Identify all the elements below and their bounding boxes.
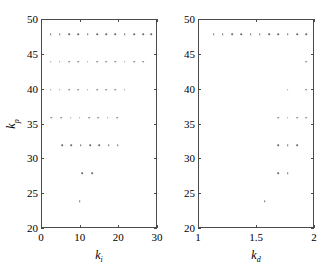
axis-label-subscript: i [101, 255, 103, 264]
y-tick-label: 45 [27, 48, 38, 59]
data-point [278, 172, 280, 174]
data-point [61, 145, 63, 147]
data-point [306, 33, 308, 35]
data-point [115, 89, 117, 91]
y-tick-mark-mirror [154, 228, 157, 229]
data-point [268, 33, 270, 35]
data-point [70, 117, 72, 119]
x-tick-mark-mirror [314, 19, 315, 22]
y-tick-mark [198, 193, 201, 194]
data-point [71, 145, 73, 147]
y-tick-mark-mirror [311, 228, 314, 229]
x-tick-label: 0 [38, 232, 44, 243]
data-point [96, 33, 98, 35]
y-tick-mark [41, 228, 44, 229]
data-point [59, 61, 61, 63]
y-tick-mark-mirror [154, 193, 157, 194]
y-tick-mark [198, 124, 201, 125]
y-tick-label: 40 [184, 83, 195, 94]
data-point [222, 33, 224, 35]
data-point [50, 117, 52, 119]
y-tick-mark [198, 54, 201, 55]
x-tick-mark-mirror [41, 19, 42, 22]
data-point [108, 145, 110, 147]
data-point [306, 89, 308, 91]
data-point [287, 89, 289, 91]
x-tick-mark [198, 225, 199, 228]
y-tick-label: 35 [27, 118, 38, 129]
x-tick-mark [314, 225, 315, 228]
data-point [96, 61, 98, 63]
data-point [78, 33, 80, 35]
data-point [98, 145, 100, 147]
x-tick-mark-mirror [118, 19, 119, 22]
y-tick-mark-mirror [154, 124, 157, 125]
x-tick-mark [256, 225, 257, 228]
data-point [296, 117, 298, 119]
data-point [250, 33, 252, 35]
data-point [79, 117, 81, 119]
y-tick-mark [198, 89, 201, 90]
data-point [105, 89, 107, 91]
x-tick-mark [41, 225, 42, 228]
y-tick-mark-mirror [311, 158, 314, 159]
data-point [81, 172, 83, 174]
data-point [133, 33, 135, 35]
scatter-panel-kd: 2025303540455011.52 kd [162, 0, 323, 272]
x-tick-label: 2 [311, 232, 317, 243]
data-point [59, 33, 61, 35]
y-tick-mark-mirror [154, 158, 157, 159]
data-point [50, 61, 52, 63]
data-point [68, 33, 70, 35]
y-tick-label: 25 [27, 188, 38, 199]
data-point [287, 145, 289, 147]
x-axis-label-right: kd [251, 249, 260, 264]
data-point [259, 33, 261, 35]
y-tick-mark [41, 124, 44, 125]
data-point [116, 117, 118, 119]
data-point [306, 117, 308, 119]
y-tick-mark-mirror [154, 89, 157, 90]
x-tick-mark-mirror [157, 19, 158, 22]
axis-label-subscript: d [257, 255, 261, 264]
y-tick-mark [198, 158, 201, 159]
x-tick-label: 1.5 [249, 232, 263, 243]
y-tick-mark-mirror [154, 54, 157, 55]
y-tick-mark [41, 158, 44, 159]
data-point [115, 61, 117, 63]
data-point [143, 33, 145, 35]
axes-right [198, 19, 314, 228]
axis-label-base: k [4, 123, 18, 128]
x-tick-mark [118, 225, 119, 228]
x-tick-mark-mirror [80, 19, 81, 22]
x-tick-mark-mirror [256, 19, 257, 22]
scatter-panel-ki: 202530354045500102030 kp ki [0, 0, 161, 272]
x-tick-mark [157, 225, 158, 228]
data-point [124, 33, 126, 35]
data-point [50, 33, 52, 35]
plot-area-left [42, 20, 156, 227]
data-point [287, 33, 289, 35]
x-tick-label: 20 [113, 232, 124, 243]
axis-label-subscript: p [12, 119, 21, 123]
data-point [231, 33, 233, 35]
figure-canvas: 202530354045500102030 kp ki 202530354045… [0, 0, 323, 272]
y-tick-mark-mirror [311, 193, 314, 194]
data-point [296, 145, 298, 147]
y-tick-label: 30 [184, 153, 195, 164]
y-tick-label: 40 [27, 83, 38, 94]
data-point [287, 117, 289, 119]
x-tick-mark-mirror [198, 19, 199, 22]
data-point [98, 117, 100, 119]
data-point [278, 117, 280, 119]
data-point [133, 61, 135, 63]
y-axis-label-left: kp [5, 119, 20, 128]
data-point [87, 89, 89, 91]
y-tick-label: 25 [184, 188, 195, 199]
data-point [68, 61, 70, 63]
data-point [124, 89, 126, 91]
y-tick-mark [41, 89, 44, 90]
y-tick-mark [41, 193, 44, 194]
data-point [278, 145, 280, 147]
data-point [88, 117, 90, 119]
